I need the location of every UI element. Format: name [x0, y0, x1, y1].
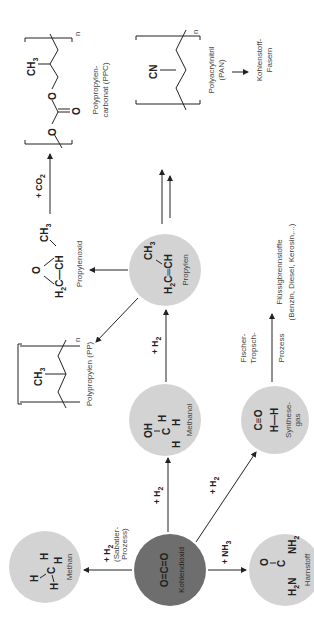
co2-formula: O=C=O	[159, 553, 170, 588]
pp-n: n	[73, 338, 82, 342]
propylenoxid-label: Propylenoxid	[75, 241, 84, 287]
ppc-o2: O	[47, 92, 58, 100]
harnstoff-h2n: H	[287, 589, 298, 596]
harnstoff-nh2: NH	[287, 540, 298, 554]
svg-text:H2C—CH: H2C—CH	[54, 255, 67, 298]
svg-text:+ H2: + H2	[152, 487, 164, 504]
arrow-co2-synthesegas: + H2	[196, 452, 256, 542]
svg-text:CH3: CH3	[39, 224, 52, 242]
node-polypropylen: CH3 n Polypropylen (PP)	[18, 338, 94, 408]
propylen-h2c: H	[163, 287, 174, 294]
diagram-canvas: O=C=O Kohlendioxid H C H H H Methan O C …	[0, 0, 314, 644]
svg-text:Fischer-: Fischer-	[239, 333, 248, 362]
node-fluessigbrennstoffe: Flüssigbrennstoffe (Benzin, Diesel, Kero…	[275, 223, 296, 320]
synthesegas-label: Synthese-	[284, 402, 293, 438]
propylenoxid-o: O	[31, 266, 42, 274]
harnstoff-o: O	[259, 558, 270, 566]
ppc-o-carbonyl: O	[71, 107, 82, 115]
svg-text:Tropsch-: Tropsch-	[249, 332, 258, 364]
arrow-co2-methan: + H2 (Sabatier- Prozess)	[84, 527, 132, 570]
propylenoxid-h2c: H	[54, 291, 65, 298]
arrow-propylenoxid-ppc: + CO2	[34, 154, 50, 214]
methan-c: C	[46, 567, 57, 574]
node-propylenoxid: O H2C—CH CH3 Propylenoxid	[31, 224, 84, 298]
synthesegas-co: C≡O	[253, 409, 264, 430]
methanol-c: C	[161, 428, 172, 435]
fasern-label: Kohlenstoff-	[255, 38, 264, 81]
pp-ch3: CH	[33, 372, 44, 386]
arrow-methanol-propylen: + H2	[150, 310, 166, 382]
arrow-co2-methanol: + H2	[152, 458, 168, 532]
propylen-label: Propylen	[181, 254, 190, 286]
node-ppc: O O O CH3 n Polypropylen- carbonat (PPC)	[25, 32, 110, 148]
svg-text:+ H2: + H2	[208, 477, 220, 494]
propylenoxid-ch3: CH	[39, 228, 50, 242]
ppc-o1: O	[47, 128, 58, 136]
arrow-fischer-tropsch: Fischer- Tropsch- Prozess	[239, 314, 286, 382]
node-kohlenstoff-fasern: Kohlenstoff- Fasern	[255, 38, 274, 81]
propylen-ch3: CH	[143, 246, 154, 260]
svg-text:+ H2: + H2	[150, 337, 162, 354]
methanol-h-right: H	[157, 415, 168, 422]
node-propylen: CH3 H2C═CH Propylen	[129, 234, 201, 306]
ppc-label: Polypropylen-	[91, 65, 100, 114]
svg-text:CH3: CH3	[26, 58, 39, 76]
fasern-label2: Fasern	[265, 48, 274, 73]
co2-label: Kohlendioxid	[177, 547, 186, 593]
methan-h-bottom: H	[53, 557, 64, 564]
methan-label: Methan	[65, 554, 74, 581]
svg-text:+ NH3: + NH3	[220, 540, 232, 564]
pan-label: Polyacrylnitril	[207, 46, 216, 93]
co2-conversion-diagram: O=C=O Kohlendioxid H C H H H Methan O C …	[0, 0, 314, 644]
methanol-label: Methanol	[185, 403, 194, 436]
node-synthesegas: C≡O H—H Synthese- gas	[241, 386, 309, 454]
svg-text:CH3: CH3	[33, 368, 46, 386]
methan-h-left: H	[49, 583, 60, 590]
ppc-ch3: CH	[26, 62, 37, 76]
pan-n: n	[191, 30, 200, 34]
methan-h-right: H	[39, 553, 50, 560]
fluessig-label2: (Benzin, Diesel, Kerosin,...)	[287, 223, 296, 320]
fluessig-label: Flüssigbrennstoffe	[275, 239, 284, 305]
node-pan: CN n Polyacrylnitril (PAN)	[136, 30, 226, 110]
arrow-co2-harnstoff: + NH3	[208, 540, 246, 570]
pan-label2: (PAN)	[217, 59, 226, 81]
methanol-oh: OH	[143, 423, 154, 438]
harnstoff-label: Harnstoff	[303, 553, 312, 586]
arrow-propylen-pan	[162, 170, 170, 224]
methan-h-top: H	[29, 575, 40, 582]
synthesegas-label2: gas	[293, 414, 302, 427]
svg-text:Prozess): Prozess)	[120, 528, 129, 560]
svg-text:+ CO2: + CO2	[34, 174, 46, 198]
methanol-h-bottom: H	[171, 419, 182, 426]
node-kohlendioxid: O=C=O Kohlendioxid	[134, 534, 206, 606]
arrow-propylen-pp	[96, 298, 138, 342]
node-methanol: OH C H H H Methanol	[129, 384, 201, 456]
ppc-n: n	[73, 32, 82, 36]
svg-text:Prozess: Prozess	[277, 334, 286, 363]
node-harnstoff: O C H2N NH2 Harnstoff	[249, 534, 314, 606]
pan-cn: CN	[148, 65, 159, 79]
propylenoxid-ch: CH	[54, 255, 65, 269]
ppc-label2: carbonat (PPC)	[101, 62, 110, 117]
node-methan: H C H H H Methan	[9, 531, 81, 603]
pp-label: Polypropylen (PP)	[85, 341, 94, 406]
methanol-h-left: H	[171, 441, 182, 448]
synthesegas-hh: H—H	[269, 408, 280, 432]
harnstoff-c: C	[276, 560, 287, 567]
